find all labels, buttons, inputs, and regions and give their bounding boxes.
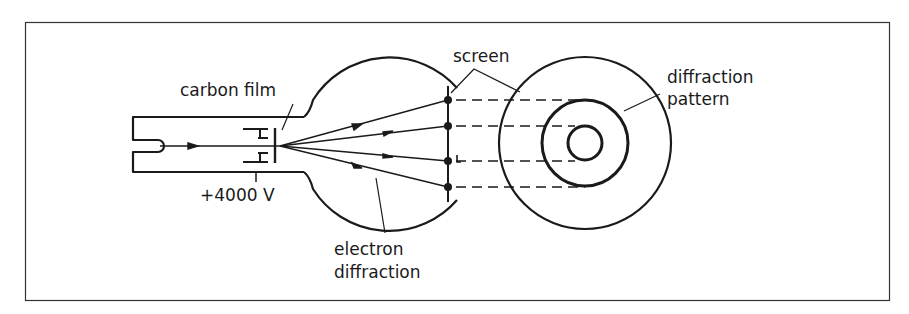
fluorescent-screen — [444, 86, 461, 202]
label-diffraction-pattern-1: diffraction — [667, 67, 754, 87]
label-screen: screen — [453, 46, 510, 66]
arrow-icon — [188, 143, 198, 149]
screen-disc — [499, 57, 671, 229]
anode-assembly — [243, 128, 275, 182]
electron-beams — [160, 100, 448, 187]
electron-diffraction-diagram: carbon film +4000 V electron diffraction… — [0, 0, 909, 314]
outer-ring — [542, 100, 628, 186]
diffraction-pattern — [499, 57, 671, 229]
arrow-icon — [383, 154, 393, 158]
label-diffraction-pattern-2: pattern — [667, 89, 729, 109]
label-voltage: +4000 V — [200, 185, 275, 205]
arrow-icon — [383, 131, 393, 136]
label-electron-diffraction-2: diffraction — [334, 262, 421, 282]
projection-lines — [456, 100, 585, 187]
label-electron-diffraction-1: electron — [334, 239, 403, 259]
arrow-icon — [352, 124, 362, 130]
label-carbon-film: carbon film — [180, 80, 276, 100]
inner-ring — [568, 126, 602, 160]
